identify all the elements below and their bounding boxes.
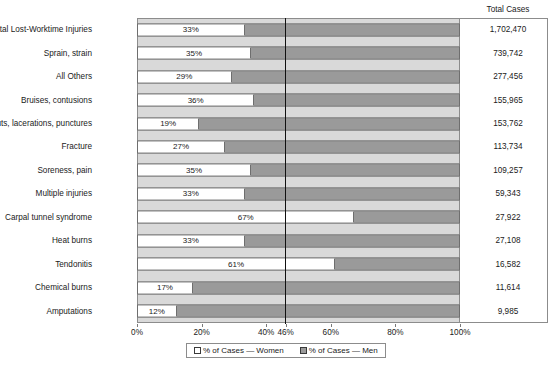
bar-value-label: 19% [138,119,198,128]
x-axis-tick-label: 100% [450,328,471,337]
bar-value-label: 36% [138,96,253,105]
bar-row: Amputations12%9,985 [0,299,553,322]
stacked-bar: 12% [137,305,460,318]
total-cases-value: 27,922 [466,213,550,222]
category-label: Multiple injuries [0,189,92,198]
total-cases-value: 277,456 [466,72,550,81]
bar-value-label: 61% [138,260,334,269]
stacked-bar: 35% [137,47,460,60]
total-cases-value: 109,257 [466,166,550,175]
bar-row: All Others29%277,456 [0,65,553,88]
category-label: Fracture [0,142,92,151]
stacked-bar: 67% [137,211,460,224]
legend-swatch-men-icon [300,347,307,354]
chart-title [0,0,553,1]
bar-value-label: 33% [138,236,244,245]
category-label: Bruises, contusions [0,96,92,105]
total-cases-value: 9,985 [466,307,550,316]
category-label: Sprain, strain [0,49,92,58]
total-cases-value: 739,742 [466,49,550,58]
total-cases-value: 155,965 [466,96,550,105]
category-label: Amputations [0,307,92,316]
bar-segment-women: 67% [138,212,354,223]
category-label: Cuts, lacerations, punctures [0,119,92,128]
legend-item: % of Cases — Women [194,346,284,355]
stacked-bar: 19% [137,117,460,130]
x-axis-tick-label: 80% [387,328,403,337]
category-label: Chemical burns [0,283,92,292]
category-label: Heat burns [0,236,92,245]
legend-label: % of Cases — Men [309,346,378,355]
total-cases-value: 1,702,470 [466,25,550,34]
bar-segment-men [335,259,459,270]
legend-item: % of Cases — Men [300,346,378,355]
x-axis-tick [266,324,267,327]
bar-segment-women: 29% [138,71,232,82]
x-axis-tick [395,324,396,327]
bar-segment-men [232,71,459,82]
bar-segment-women: 35% [138,165,251,176]
total-cases-value: 27,108 [466,236,550,245]
x-axis-tick-label: 60% [323,328,339,337]
category-label: Carpal tunnel syndrome [0,213,92,222]
bar-segment-women: 35% [138,48,251,59]
total-cases-value: 11,614 [466,283,550,292]
bar-segment-women: 12% [138,306,177,317]
legend-swatch-women-icon [194,347,201,354]
stacked-bar: 35% [137,164,460,177]
x-axis-tick [460,324,461,327]
bar-row: Total Lost-Worktime Injuries33%1,702,470 [0,18,553,41]
stacked-bar: 33% [137,23,460,36]
bar-segment-women: 36% [138,95,254,106]
x-axis-tick-label: 20% [193,328,209,337]
x-axis: 0%20%40%46%60%80%100% [137,324,460,328]
bar-row: Tendonitis61%16,582 [0,253,553,276]
bar-segment-women: 27% [138,141,225,152]
bar-value-label: 67% [138,213,353,222]
total-cases-header: Total Cases [466,5,550,14]
category-label: All Others [0,72,92,81]
total-cases-value: 59,343 [466,189,550,198]
bar-segment-women: 33% [138,188,245,199]
x-axis-tick-label: 0% [131,328,143,337]
bar-segment-women: 19% [138,118,199,129]
bar-segment-men [225,141,459,152]
total-cases-value: 16,582 [466,260,550,269]
bar-segment-men [193,282,459,293]
bar-value-label: 12% [138,307,176,316]
stacked-bar: 36% [137,94,460,107]
bar-segment-women: 33% [138,235,245,246]
bar-segment-women: 61% [138,259,335,270]
bar-row: Bruises, contusions36%155,965 [0,88,553,111]
bar-value-label: 33% [138,189,244,198]
bar-value-label: 33% [138,25,244,34]
stacked-bar: 33% [137,187,460,200]
stacked-bar: 33% [137,234,460,247]
x-axis-tick [286,324,287,327]
chart-legend: % of Cases — Women% of Cases — Men [186,343,386,358]
bar-segment-men [245,24,459,35]
bar-row: Multiple injuries33%59,343 [0,182,553,205]
bar-segment-men [354,212,459,223]
bar-segment-women: 33% [138,24,245,35]
x-axis-tick-label: 40% [258,328,274,337]
bar-value-label: 27% [138,142,224,151]
stacked-bar: 61% [137,258,460,271]
bar-row: Chemical burns17%11,614 [0,276,553,299]
bar-rows: Total Lost-Worktime Injuries33%1,702,470… [0,18,553,323]
x-axis-tick [202,324,203,327]
bar-segment-men [199,118,459,129]
bar-value-label: 29% [138,72,231,81]
total-cases-value: 113,734 [466,142,550,151]
legend-label: % of Cases — Women [203,346,284,355]
category-label: Total Lost-Worktime Injuries [0,25,92,34]
stacked-bar: 29% [137,70,460,83]
bar-value-label: 35% [138,49,250,58]
bar-segment-men [177,306,459,317]
bar-row: Heat burns33%27,108 [0,229,553,252]
bar-segment-men [245,188,459,199]
category-label: Soreness, pain [0,166,92,175]
x-axis-tick [137,324,138,327]
bar-value-label: 35% [138,166,250,175]
bar-row: Carpal tunnel syndrome67%27,922 [0,206,553,229]
